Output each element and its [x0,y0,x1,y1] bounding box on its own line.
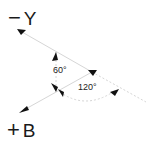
arrow-icon-120-left [58,89,64,97]
plus-sign: + [7,117,20,142]
angle-label-60: 60° [53,66,67,75]
angle-arc-120 [60,92,113,101]
negative-y-label: −Y [8,7,37,29]
arrow-icon-60-top [52,52,58,61]
arrow-icon-60-bottom [51,83,58,92]
positive-b-label: +B [7,119,36,141]
angle-label-120: 120° [78,83,97,92]
y-axis-extension-dotted [92,72,146,102]
minus-sign: − [8,5,21,30]
vector-angle-diagram: −Y +B 60° 120° [0,0,146,145]
b-axis-name: B [23,120,36,141]
arrow-icon-b-end [19,106,29,113]
y-axis-name: Y [24,8,37,29]
arrow-icon-120-right [110,89,119,96]
